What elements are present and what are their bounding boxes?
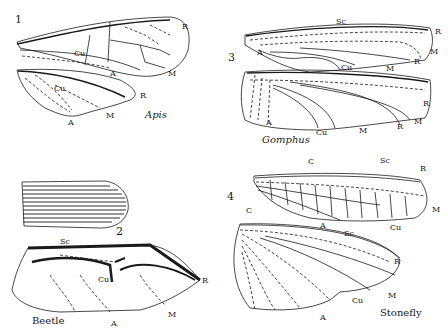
label-apis-hind-cu: Cu	[54, 85, 65, 93]
label-apis-fore-a: A	[110, 70, 116, 78]
figure-number-1: 1	[15, 14, 22, 25]
label-gomphus-fore-m: M	[386, 65, 394, 73]
label-stonefly-hind-a: A	[320, 314, 326, 322]
apis-hindwing	[17, 69, 135, 116]
gomphus-forewing	[245, 24, 432, 72]
label-gomphus-fore-sc: Sc	[336, 18, 346, 26]
stonefly-forewing	[254, 173, 427, 221]
label-gomphus-hind-cu: Cu	[316, 129, 327, 137]
figure-number-4: 4	[227, 191, 234, 202]
label-gomphus-hind-m: M	[359, 127, 367, 135]
label-gomphus-fore-a: A	[257, 49, 263, 57]
label-gomphus-hind-r2: R	[423, 100, 429, 108]
label-gomphus-fore-m2: M	[430, 48, 438, 56]
label-beetle-m: M	[168, 311, 176, 319]
label-stonefly-hind-cu: Cu	[352, 297, 363, 305]
label-stonefly-hind-c: C	[246, 207, 252, 215]
label-gomphus-hind-r: R	[397, 123, 403, 131]
label-stonefly-fore-c: C	[308, 158, 314, 166]
beetle-elytron	[22, 181, 128, 228]
figure-number-3: 3	[228, 52, 235, 63]
label-stonefly-fore-cu: Cu	[390, 224, 401, 232]
label-stonefly-hind-r: R	[394, 258, 400, 266]
label-beetle-r: R	[202, 277, 208, 285]
figure-name-beetle: Beetle	[32, 316, 64, 326]
label-stonefly-fore-m: M	[432, 206, 440, 214]
label-beetle-sc: Sc	[60, 238, 70, 246]
figure-name-apis: Apis	[145, 110, 167, 120]
label-gomphus-fore-cu: Cu	[341, 64, 352, 72]
stonefly-hindwing	[234, 224, 400, 310]
label-beetle-a: A	[111, 320, 117, 328]
label-stonefly-hind-m: M	[388, 292, 396, 300]
label-apis-fore-r: R	[182, 23, 188, 31]
wing-venation-drawings	[0, 0, 448, 336]
label-stonefly-fore-sc: Sc	[380, 157, 390, 165]
label-apis-fore-cu: Cu	[74, 50, 85, 58]
label-gomphus-fore-r2: R	[435, 28, 441, 36]
label-gomphus-fore-r: R	[414, 58, 420, 66]
figure-number-2: 2	[116, 226, 123, 237]
label-apis-hind-r: R	[140, 92, 146, 100]
label-apis-fore-m: M	[168, 70, 176, 78]
label-gomphus-hind-m2: M	[414, 118, 422, 126]
label-beetle-cu: Cu	[98, 276, 109, 284]
label-gomphus-hind-a: A	[266, 119, 272, 127]
figure-name-stonefly: Stonefly	[380, 308, 422, 318]
apis-forewing	[17, 17, 189, 76]
label-apis-hind-m: M	[106, 112, 114, 120]
label-apis-hind-a: A	[68, 119, 74, 127]
label-stonefly-hind-sc: Sc	[344, 230, 354, 238]
label-stonefly-fore-r: R	[420, 165, 426, 173]
figure-name-gomphus: Gomphus	[262, 135, 310, 145]
label-stonefly-fore-a: A	[320, 222, 326, 230]
